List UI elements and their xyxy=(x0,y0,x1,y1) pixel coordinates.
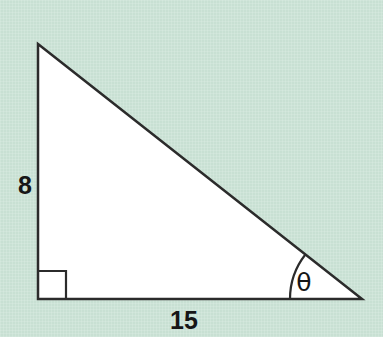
right-triangle-figure: 8 15 θ xyxy=(0,0,383,337)
theta-angle-label: θ xyxy=(296,268,311,297)
vertical-leg-label: 8 xyxy=(18,171,32,199)
figure-canvas: 8 15 θ xyxy=(0,0,383,337)
triangle-shape xyxy=(38,44,362,299)
horizontal-leg-label: 15 xyxy=(170,306,198,334)
